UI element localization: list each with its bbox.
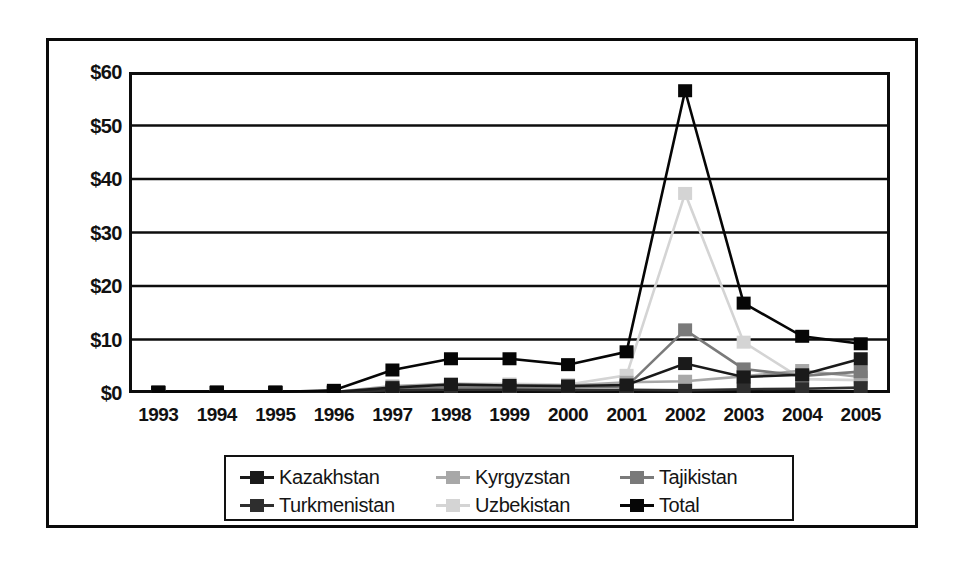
x-axis-tick-label: 1994 [197,404,237,426]
legend-label: Turkmenistan [279,495,395,515]
data-point-marker [854,365,868,378]
legend-label: Uzbekistan [475,495,570,515]
data-point-marker [737,370,751,383]
chart-legend: KazakhstanKyrgyzstanTajikistan Turkmenis… [224,455,794,521]
x-axis-tick-label: 1993 [138,404,178,426]
x-axis-tick-label: 1997 [372,404,412,426]
data-point-marker [737,383,751,393]
legend-marker-icon [620,496,654,514]
x-axis-tick-label: 2004 [782,404,822,426]
legend-label: Total [659,495,699,515]
data-point-marker [503,379,517,392]
x-axis-tick-label: 2002 [665,404,705,426]
legend-row: KazakhstanKyrgyzstanTajikistan [240,463,782,491]
x-axis: 1993199419951996199719981999200020012002… [129,404,890,438]
y-axis-tick-label: $40 [48,169,122,189]
data-point-marker [151,385,165,393]
x-axis-tick-label: 2005 [841,404,881,426]
x-axis-tick-label: 1999 [489,404,529,426]
y-axis-tick-label: $0 [48,383,122,403]
data-point-marker [620,345,634,358]
legend-label: Kazakhstan [279,467,380,487]
data-point-marker [737,297,751,310]
y-axis-tick-label: $60 [48,62,122,82]
x-axis-tick-label: 1998 [431,404,471,426]
x-axis-tick-label: 1996 [314,404,354,426]
legend-item-tajikistan[interactable]: Tajikistan [620,463,737,491]
x-axis-tick-label: 2001 [606,404,646,426]
legend-item-kazakhstan[interactable]: Kazakhstan [240,463,436,491]
data-point-marker [561,358,575,371]
data-point-marker [444,352,458,365]
data-point-marker [854,381,868,393]
y-axis-tick-label: $50 [48,116,122,136]
data-point-marker [854,337,868,350]
data-point-marker [210,385,224,393]
line-chart-svg [129,72,890,393]
x-axis-tick-label: 1995 [255,404,295,426]
data-point-marker [620,378,634,391]
data-point-marker [795,330,809,343]
legend-marker-icon [240,468,274,486]
legend-label: Kyrgyzstan [475,467,570,487]
legend-item-total[interactable]: Total [620,491,699,519]
data-point-marker [795,382,809,393]
legend-item-uzbekistan[interactable]: Uzbekistan [436,491,620,519]
data-point-marker [385,363,399,376]
data-point-marker [795,368,809,381]
legend-marker-icon [436,468,470,486]
legend-label: Tajikistan [659,467,737,487]
legend-marker-icon [436,496,470,514]
data-point-marker [327,384,341,393]
data-point-marker [678,84,692,97]
data-point-marker [268,385,282,393]
data-point-marker [737,336,751,349]
data-point-marker [678,384,692,393]
legend-marker-icon [620,468,654,486]
data-point-marker [854,352,868,365]
data-point-marker [444,378,458,391]
x-axis-tick-label: 2000 [548,404,588,426]
data-point-marker [678,357,692,370]
plot-area [129,72,890,393]
legend-row: TurkmenistanUzbekistanTotal [240,491,782,519]
legend-item-turkmenistan[interactable]: Turkmenistan [240,491,436,519]
legend-item-kyrgyzstan[interactable]: Kyrgyzstan [436,463,620,491]
data-point-marker [678,323,692,336]
y-axis-tick-label: $30 [48,223,122,243]
legend-marker-icon [240,496,274,514]
data-point-marker [678,187,692,200]
x-axis-tick-label: 2003 [724,404,764,426]
y-axis-tick-label: $20 [48,276,122,296]
data-point-marker [561,380,575,393]
data-point-marker [503,352,517,365]
y-axis: $60$50$40$30$20$10$0 [46,0,122,566]
data-point-marker [385,381,399,393]
y-axis-tick-label: $10 [48,330,122,350]
